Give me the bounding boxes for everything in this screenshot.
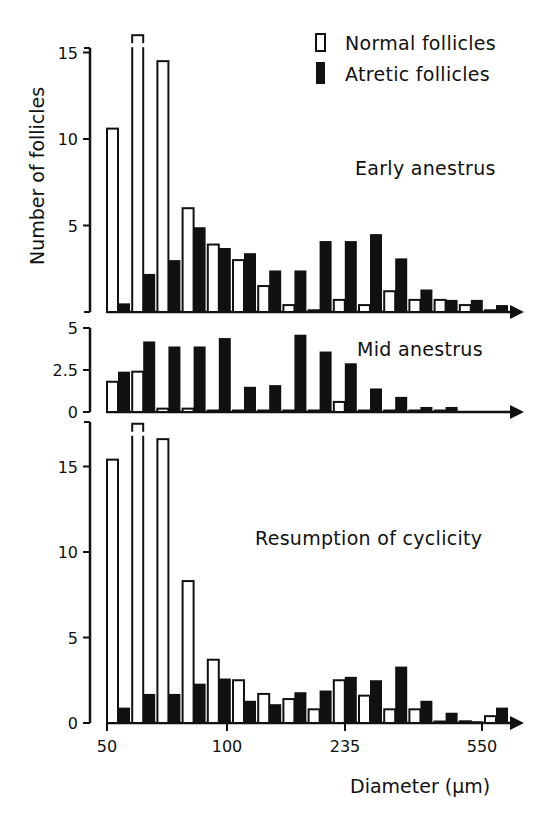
bar-normal [309,411,320,413]
bar-atretic [244,253,256,312]
x-axis-arrow-icon [510,716,524,730]
legend-swatch-atretic [316,62,325,84]
bar-atretic [269,270,281,312]
bar-atretic [219,338,231,412]
bar-atretic [320,352,332,412]
bar-atretic [496,708,508,723]
bar-break-marker [130,43,145,47]
bar-normal [132,424,143,723]
bar-atretic [118,708,130,723]
bar-normal [183,581,194,723]
panel-title-mid-anestrus: Mid anestrus [357,338,483,360]
bar-atretic [345,677,357,723]
y-tick-label: 15 [58,458,78,477]
bar-atretic [194,684,206,723]
bar-normal [435,411,446,413]
bar-atretic [420,701,432,723]
bar-normal [283,699,294,723]
bar-normal [460,305,471,312]
bar-normal [233,411,244,413]
bar-normal [208,411,219,413]
panel-resumption-of-cyclicity: 051015 [58,422,524,733]
bar-normal [132,35,143,312]
bar-atretic [370,680,382,723]
x-tick-label: 50 [97,737,117,756]
y-tick-label: 5 [68,319,78,338]
legend-label-atretic: Atretic follicles [345,63,490,85]
bar-normal [283,411,294,413]
bar-atretic [471,721,483,723]
bar-atretic [118,303,130,312]
bar-atretic [420,290,432,312]
x-axis-title: Diameter (µm) [350,775,490,797]
bar-normal [409,411,420,413]
bar-atretic [471,300,483,312]
bar-atretic [244,701,256,723]
bar-normal [334,402,345,412]
bar-normal [157,409,168,412]
bar-normal [384,709,395,723]
bar-normal [384,291,395,312]
bar-normal [309,310,320,312]
bar-normal [309,709,320,723]
legend-label-normal: Normal follicles [345,32,496,54]
bar-atretic [395,667,407,723]
bar-atretic [496,305,508,312]
bar-normal [183,409,194,412]
bar-normal [208,660,219,723]
x-axis-arrow-icon [510,405,524,419]
bar-normal [107,382,118,412]
bar-atretic [446,713,458,723]
bar-normal [435,722,446,724]
bar-atretic [194,227,206,312]
bar-normal [208,245,219,312]
legend: Normal follicles Atretic follicles [316,32,496,85]
bar-atretic [168,346,180,412]
bar-normal [233,260,244,312]
bar-normal [233,680,244,723]
bar-atretic [446,300,458,312]
bar-atretic [370,234,382,312]
bar-atretic [294,270,306,312]
x-axis-arrow-icon [510,305,524,319]
bar-atretic [194,346,206,412]
y-tick-label: 5 [68,629,78,648]
x-tick-label: 550 [467,737,498,756]
bar-atretic [168,260,180,312]
bar-normal [460,721,471,723]
y-tick-label: 0 [68,714,78,733]
bar-atretic [219,248,231,312]
bar-atretic [345,363,357,412]
bar-atretic [395,258,407,312]
bar-normal [485,716,496,723]
bar-normal [334,300,345,312]
bar-normal [283,305,294,312]
bar-atretic [320,241,332,312]
bar-atretic [143,274,155,312]
bar-normal [359,305,370,312]
bar-atretic [345,241,357,312]
bar-atretic [420,407,432,412]
bar-atretic [269,385,281,412]
bar-normal [183,208,194,312]
bar-atretic [118,372,130,412]
y-tick-label: 15 [58,44,78,63]
bar-atretic [294,335,306,412]
bar-normal [157,439,168,723]
y-tick-label: 2.5 [53,361,78,380]
bar-normal [258,411,269,413]
bar-atretic [143,694,155,723]
bar-atretic [446,407,458,412]
panel-title-resumption: Resumption of cyclicity [255,527,482,549]
bar-normal [258,694,269,723]
bar-normal [258,286,269,312]
bar-normal [485,310,496,312]
bar-normal [157,61,168,312]
x-tick-labels: 50 100 235 550 [97,737,497,756]
bar-atretic [395,397,407,412]
bar-atretic [294,692,306,723]
y-axis-title: Number of follicles [26,87,48,265]
bar-normal [409,300,420,312]
bar-atretic [320,691,332,723]
bar-normal [107,460,118,723]
